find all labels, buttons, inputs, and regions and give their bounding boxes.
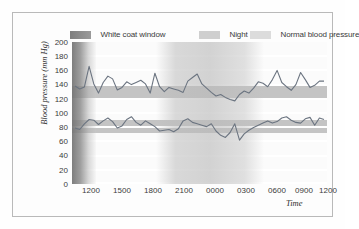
x-axis-label: Time xyxy=(286,198,303,208)
legend-item-night: Night xyxy=(199,25,248,38)
plot-area xyxy=(72,42,327,184)
chart-legend: White coat window Night Normal blood pre… xyxy=(70,25,325,38)
trace-systolic xyxy=(75,66,324,101)
legend-label-normal-blood-pressure: Normal blood pressure xyxy=(280,30,359,39)
xtick-2100: 2100 xyxy=(167,186,201,195)
legend-label-night: Night xyxy=(229,30,247,39)
trace-diastolic xyxy=(75,117,324,141)
y-axis-label: Blood pressure (mm Hg) xyxy=(39,13,49,153)
legend-label-white-coat-window: White coat window xyxy=(100,30,165,39)
xtick-1200-end: 1200 xyxy=(311,186,345,195)
xtick-0300: 0300 xyxy=(229,186,263,195)
ytick-20: 20 xyxy=(38,166,68,175)
xtick-1500: 1500 xyxy=(105,186,139,195)
legend-swatch-white-coat-window xyxy=(70,31,91,39)
legend-item-normal-blood-pressure: Normal blood pressure xyxy=(250,25,359,38)
xtick-1800: 1800 xyxy=(136,186,170,195)
legend-swatch-night xyxy=(199,31,220,39)
trace-layer xyxy=(72,42,327,184)
legend-swatch-normal-blood-pressure xyxy=(250,31,271,39)
xtick-0000: 0000 xyxy=(198,186,232,195)
legend-item-white-coat-window: White coat window xyxy=(70,25,165,38)
ytick-0: 0 xyxy=(38,180,68,189)
xtick-1200-start: 1200 xyxy=(74,186,108,195)
